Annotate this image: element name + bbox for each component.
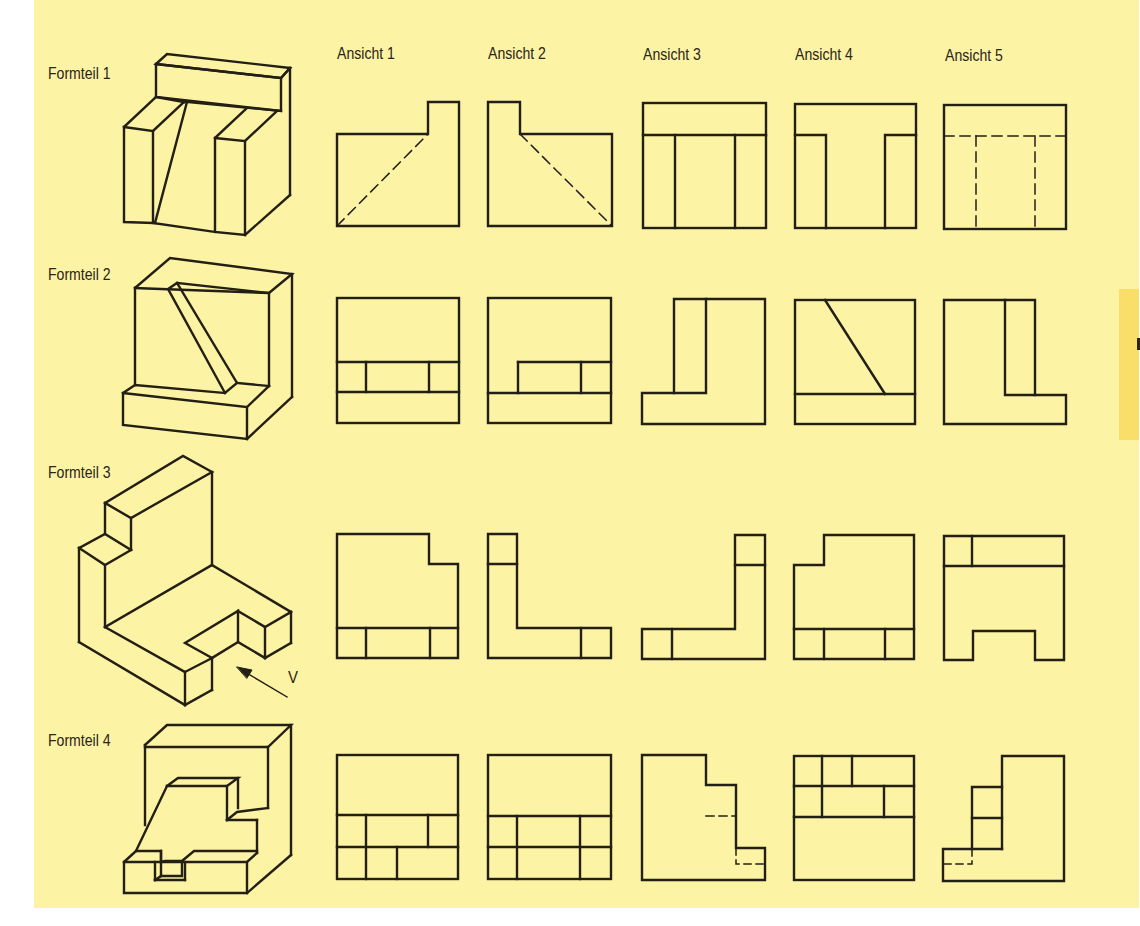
row-4-view-5 [943,756,1064,881]
row-2-view-1 [337,298,459,423]
row-3-view-3 [642,535,765,659]
row-4-view-4 [794,756,914,880]
row-2-view-5 [944,300,1066,424]
isometric-formteil-2 [123,258,292,439]
row-2-view-3 [642,299,765,424]
row-4-view-3 [642,755,765,880]
row-3-view-1 [337,534,458,658]
row-4-view-1 [337,755,458,879]
isometric-formteil-4 [124,725,291,893]
row-3-view-2 [488,534,611,658]
isometric-formteil-3 [79,456,291,705]
view-direction-arrow [237,667,287,697]
row-1-view-3 [643,103,766,228]
row-1-view-5 [944,105,1066,229]
isometric-formteil-1 [124,54,290,235]
row-1-view-1 [337,102,459,226]
row-3-view-4 [794,535,914,659]
row-4-view-2 [488,755,611,879]
row-2-view-4 [795,300,915,424]
row-1-view-4 [795,104,916,228]
row-2-view-2 [488,298,611,423]
row-3-view-5 [944,536,1064,660]
row-1-view-2 [488,102,612,226]
